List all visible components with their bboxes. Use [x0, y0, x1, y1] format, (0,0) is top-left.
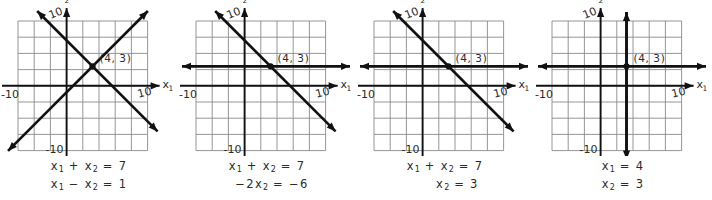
x-axis-arrow-end — [151, 82, 160, 89]
y-tick-label-neg10: -10 — [580, 143, 598, 156]
axes — [358, 8, 516, 156]
x-axis-label-subscript: 1 — [169, 84, 174, 93]
equation-line: x2 = 3 — [602, 177, 645, 195]
x-axis-label-subscript: 1 — [703, 84, 708, 93]
equation-term: = 1 — [98, 177, 127, 191]
y-axis-label-subscript: 2 — [599, 0, 604, 5]
y-tick-label-10: 10 — [581, 4, 599, 21]
series-line-1 — [393, 11, 513, 131]
solution-point-marker — [89, 63, 95, 69]
equation-term: x — [229, 159, 237, 173]
x-tick-label-10: 10 — [314, 85, 331, 101]
equation-term: = 3 — [615, 177, 644, 191]
equation-term: x — [407, 159, 415, 173]
x-tick-label-10: 10 — [492, 85, 509, 101]
equation-term: + — [420, 159, 441, 173]
equation-term: x — [602, 159, 610, 173]
series-line-2-arrow-start — [182, 63, 191, 70]
data-series — [360, 11, 528, 131]
data-series — [182, 11, 350, 131]
y-tick-label-neg10: -10 — [224, 143, 242, 156]
x-tick-label-10: 10 — [136, 85, 153, 101]
plot-area-3: x1x210-1010-10(4, 3) — [356, 0, 534, 156]
x-axis-arrow-end — [507, 82, 516, 89]
series-line-2-arrow-start — [538, 63, 547, 70]
equation-line: −2x2 = −6 — [225, 177, 308, 195]
solution-point-group: (4, 3) — [89, 52, 131, 69]
equation-term: x — [85, 177, 93, 191]
equation-term: x — [411, 177, 444, 191]
y-tick-label-10: 10 — [225, 4, 243, 21]
equation-system-3: x1 + x2 = 7 x2 = 3 — [356, 156, 534, 200]
equation-term: = 4 — [615, 159, 644, 173]
x-tick-label-neg10: -10 — [1, 88, 19, 101]
solution-point-marker — [623, 63, 629, 69]
y-axis-label-subscript: 2 — [65, 0, 70, 5]
x-tick-label-neg10: -10 — [357, 88, 375, 101]
y-tick-label-10: 10 — [403, 4, 421, 21]
x-tick-label-neg10: -10 — [535, 88, 553, 101]
equation-term: = 7 — [454, 159, 483, 173]
equation-system-2: x1 + x2 = 7 −2x2 = −6 — [178, 156, 356, 200]
equation-term: + — [242, 159, 263, 173]
axes — [536, 8, 694, 156]
series-line-2-arrow-end — [697, 63, 706, 70]
y-tick-label-neg10: -10 — [46, 143, 64, 156]
chart-panel-1: x1x210-1010-10(4, 3)x1 + x2 = 7x1 − x2 =… — [0, 0, 178, 200]
y-tick-label-10: 10 — [47, 4, 65, 21]
x-tick-label-neg10: -10 — [179, 88, 197, 101]
plot-area-4: x1x210-1010-10(4, 3) — [534, 0, 712, 156]
chart-panel-4: x1x210-1010-10(4, 3)x1 = 4x2 = 3 — [534, 0, 712, 200]
solution-point-label: (4, 3) — [634, 52, 666, 64]
x-axis-arrow-end — [329, 82, 338, 89]
equation-term: = 7 — [98, 159, 127, 173]
series-line-1 — [215, 11, 335, 131]
equation-term: = 7 — [276, 159, 305, 173]
equation-term: + — [64, 159, 85, 173]
axes — [180, 8, 338, 156]
figure-root: x1x210-1010-10(4, 3)x1 + x2 = 7x1 − x2 =… — [0, 0, 712, 200]
series-line-2 — [8, 11, 148, 151]
chart-panel-2: x1x210-1010-10(4, 3)x1 + x2 = 7 −2x2 = −… — [178, 0, 356, 200]
equation-term: x — [263, 159, 271, 173]
x-tick-label-10: 10 — [670, 85, 687, 101]
series-line-2-arrow-end — [519, 63, 528, 70]
solution-point-marker — [445, 63, 451, 69]
equation-line: x1 + x2 = 7 — [229, 159, 306, 177]
equation-line: x2 = 3 — [411, 177, 478, 195]
series-line-2-arrow-end — [341, 63, 350, 70]
x-axis-label-subscript: 1 — [525, 84, 530, 93]
equation-term: x — [441, 159, 449, 173]
solution-point-label: (4, 3) — [278, 52, 310, 64]
x-axis-arrow-end — [685, 82, 694, 89]
equation-term: = 3 — [449, 177, 478, 191]
chart-panel-3: x1x210-1010-10(4, 3)x1 + x2 = 7 x2 = 3 — [356, 0, 534, 200]
series-line-2-arrow-start — [360, 63, 369, 70]
equation-line: x1 = 4 — [602, 159, 645, 177]
equation-term: x — [51, 159, 59, 173]
solution-point-marker — [267, 63, 273, 69]
y-axis-label-subscript: 2 — [421, 0, 426, 5]
plot-area-2: x1x210-1010-10(4, 3) — [178, 0, 356, 156]
equation-system-4: x1 = 4x2 = 3 — [534, 156, 712, 200]
x-axis-label-subscript: 1 — [347, 84, 352, 93]
equation-line: x1 + x2 = 7 — [51, 159, 128, 177]
equation-term: x — [51, 177, 59, 191]
equation-term: x — [85, 159, 93, 173]
series-line-1 — [37, 11, 157, 131]
y-tick-label-neg10: -10 — [402, 143, 420, 156]
solution-point-label: (4, 3) — [456, 52, 488, 64]
equation-term: −2x — [225, 177, 263, 191]
equation-system-1: x1 + x2 = 7x1 − x2 = 1 — [0, 156, 178, 200]
equation-term: x — [602, 177, 610, 191]
y-axis-label-subscript: 2 — [243, 0, 248, 5]
equation-term: = −6 — [268, 177, 308, 191]
plot-area-1: x1x210-1010-10(4, 3) — [0, 0, 178, 156]
equation-line: x1 − x2 = 1 — [51, 177, 128, 195]
solution-point-label: (4, 3) — [100, 52, 132, 64]
equation-term: − — [64, 177, 85, 191]
equation-line: x1 + x2 = 7 — [407, 159, 484, 177]
